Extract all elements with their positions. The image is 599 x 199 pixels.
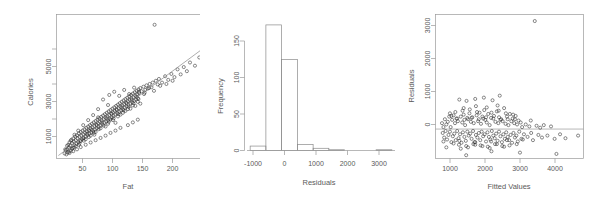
residual-ytick-3000: 3000 [424, 18, 431, 34]
residual-ytick-2000: 2000 [424, 51, 431, 67]
scatter-x-axis: 50 100 150 200 Fat [79, 159, 179, 192]
panel-calories-vs-fat: 1000 3000 5000 Calories 50 100 150 200 F… [0, 0, 200, 199]
histogram-svg: 0 50 100 150 Frequency -1000 0 1000 2000… [199, 0, 399, 199]
scatter-plot-svg: 1000 3000 5000 Calories 50 100 150 200 F… [0, 0, 200, 199]
scatter-xtick-50: 50 [79, 165, 87, 172]
residual-xtick-2000: 2000 [477, 165, 493, 172]
hist-xtick-0: 0 [283, 160, 287, 167]
hist-xtick-1000: 1000 [308, 160, 324, 167]
histogram-bars [250, 25, 392, 151]
panel-residuals-vs-fitted: 0 1000 2000 3000 Residuals 1000 2000 300… [399, 0, 599, 199]
scatter-xtick-150: 150 [137, 165, 149, 172]
residual-y-axis-label: Residuals [407, 69, 416, 102]
hist-xtick-2000: 2000 [340, 160, 356, 167]
scatter-y-axis-label: Calories [26, 78, 35, 106]
residual-xtick-4000: 4000 [547, 165, 563, 172]
hist-x-axis-label: Residuals [303, 178, 336, 187]
residual-xtick-1000: 1000 [442, 165, 458, 172]
scatter-y-axis: 1000 3000 5000 Calories [26, 49, 57, 144]
residual-xtick-3000: 3000 [512, 165, 528, 172]
hist-ytick-150: 150 [233, 35, 240, 47]
panel-residuals-histogram: 0 50 100 150 Frequency -1000 0 1000 2000… [199, 0, 399, 199]
residual-ytick-0: 0 [424, 122, 431, 126]
scatter-ytick-5000: 5000 [45, 59, 52, 75]
scatter-xtick-100: 100 [107, 165, 119, 172]
scatter-regression-line [58, 50, 200, 156]
residual-x-axis: 1000 2000 3000 4000 Fitted Values [442, 159, 563, 192]
hist-xtick-3000: 3000 [371, 160, 387, 167]
scatter-data-points [63, 23, 200, 156]
histogram-x-axis: -1000 0 1000 2000 3000 Residuals [244, 151, 395, 188]
residual-ytick-1000: 1000 [424, 84, 431, 100]
hist-y-axis-label: Frequency [216, 78, 225, 114]
hist-ytick-0: 0 [233, 148, 240, 152]
hist-ytick-100: 100 [233, 72, 240, 84]
residual-x-axis-label: Fitted Values [487, 182, 530, 191]
scatter-ytick-3000: 3000 [45, 94, 52, 110]
hist-ytick-50: 50 [233, 110, 240, 118]
scatter-ytick-1000: 1000 [45, 129, 52, 145]
histogram-y-axis: 0 50 100 150 Frequency [216, 35, 245, 152]
three-panel-regression-figure: 1000 3000 5000 Calories 50 100 150 200 F… [0, 0, 599, 199]
scatter-xtick-200: 200 [167, 165, 179, 172]
scatter-x-axis-label: Fat [123, 182, 135, 191]
hist-xtick-neg1000: -1000 [244, 160, 262, 167]
residual-plot-svg: 0 1000 2000 3000 Residuals 1000 2000 300… [399, 0, 599, 199]
residual-data-points [440, 20, 579, 157]
residual-y-axis: 0 1000 2000 3000 Residuals [407, 18, 436, 127]
